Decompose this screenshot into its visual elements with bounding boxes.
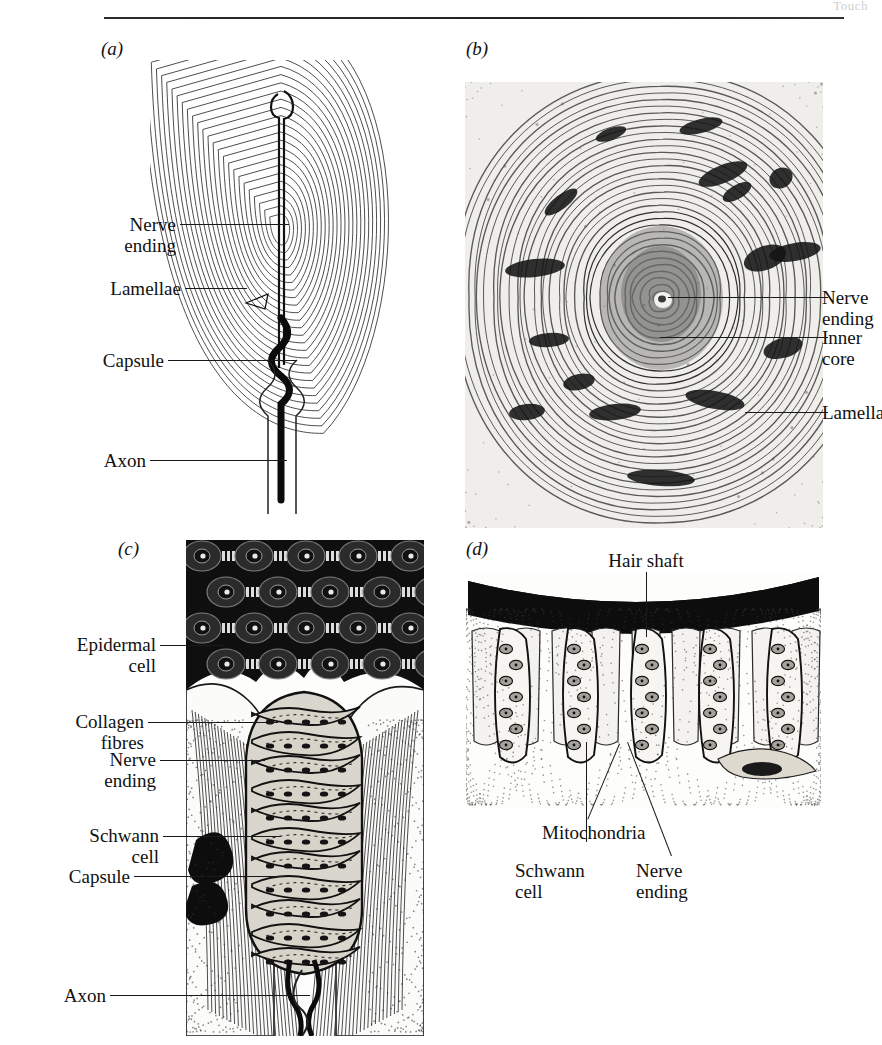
pacinian-transverse-svg [465,82,823,528]
label-nerve-ending-b: Nerve ending [822,287,882,330]
meissner-corpuscle-svg [186,540,424,1036]
dash-nerve-ending-b [818,297,828,298]
leader-nerve-ending-a [180,224,289,225]
label-schwann-cell-c: Schwann cell [0,825,159,868]
dash-inner-core-b [818,337,828,338]
label-axon-a: Axon [30,450,146,471]
label-collagen-fibres-c: Collagen fibres [0,711,144,754]
leader-nerve-ending-c [160,760,265,761]
leader-nerve-ending-b [668,297,818,298]
figure-plate: Touch (a) Nerve ending Lamellae Capsule … [0,0,882,1045]
leader-axon-a [150,460,287,461]
nerve-ending-path [271,94,279,368]
panel-d-hair-follicle-diagram [466,573,821,808]
panel-label-b: (b) [466,38,488,60]
label-nerve-ending-d: Nerve ending [636,860,756,903]
axon-path [271,318,289,500]
header-rule [104,17,844,19]
label-axon-c: Axon [0,985,106,1006]
panel-label-d: (d) [466,538,488,560]
label-hair-shaft-d: Hair shaft [586,550,706,571]
leader-collagen-fibres-c [148,722,278,723]
dash-lamellae-b [818,412,828,413]
label-nerve-ending-a: Nerve ending [30,214,176,257]
label-lamellae-b: Lamellae [822,402,882,423]
running-head: Touch [833,0,868,14]
leader-axon-c [110,995,310,996]
leader-lamellae-a [185,288,247,289]
hair-follicle-svg [466,573,821,808]
leader-hair-shaft-d [646,572,647,637]
panel-label-a: (a) [101,38,123,60]
label-epidermal-cell-c: Epidermal cell [0,634,156,677]
panel-c-meissner-diagram [186,540,424,1036]
label-capsule-a: Capsule [30,350,164,371]
leader-inner-core-b [660,337,818,338]
panel-b-pacinian-micrograph [465,82,823,528]
leader-capsule-c [134,876,284,877]
leader-schwann-cell-c [163,836,281,837]
label-schwann-cell-d: Schwann cell [515,860,635,903]
label-lamellae-a: Lamellae [30,278,181,299]
leader-epidermal-cell-c [160,645,226,646]
leader-capsule-a [168,360,297,361]
label-nerve-ending-c: Nerve ending [0,749,156,792]
panel-label-c: (c) [118,538,139,560]
label-mitochondria-d: Mitochondria [542,822,722,843]
label-capsule-c: Capsule [0,866,130,887]
leader-lamellae-b [745,412,818,413]
label-inner-core-b: Inner core [822,327,882,370]
